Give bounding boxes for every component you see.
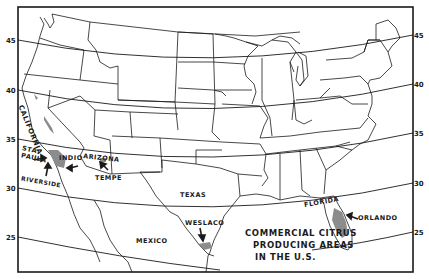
lat-label-left-45: 45 xyxy=(6,37,16,45)
map-title: COMMERCIAL CITRUS PRODUCING AREAS IN THE… xyxy=(245,227,357,263)
lat-label-right-35: 35 xyxy=(414,130,424,138)
citrus-area-weslaco xyxy=(198,242,212,250)
lat-label-left-35: 35 xyxy=(6,136,16,144)
label-indio: INDIO xyxy=(59,154,83,162)
citrus-area-california-north xyxy=(34,94,38,100)
lat-label-right-40: 40 xyxy=(414,81,424,89)
label-texas: TEXAS xyxy=(180,191,206,199)
label-tempe: TEMPE xyxy=(95,174,122,182)
map-title-line-3: IN THE U.S. xyxy=(245,251,357,263)
label-orlando: ORLANDO xyxy=(358,214,398,222)
lat-label-left-30: 30 xyxy=(6,185,16,193)
label-mexico: MEXICO xyxy=(136,237,168,245)
lat-label-left-40: 40 xyxy=(6,87,16,95)
label-weslaco: WESLACO xyxy=(185,219,224,227)
lat-label-right-30: 30 xyxy=(414,180,424,188)
lat-label-right-45: 45 xyxy=(414,32,424,40)
lat-label-left-25: 25 xyxy=(6,234,16,242)
citrus-area-california-central xyxy=(44,116,54,134)
us-outline-map xyxy=(0,0,429,279)
lat-label-right-25: 25 xyxy=(414,229,424,237)
map-title-line-2: PRODUCING AREAS xyxy=(245,239,357,251)
map-title-line-1: COMMERCIAL CITRUS xyxy=(245,227,357,239)
